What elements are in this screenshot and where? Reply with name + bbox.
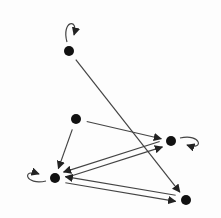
edge-C-to-D: [64, 141, 160, 172]
node-A: [64, 46, 74, 56]
directed-graph: [0, 0, 221, 218]
self-loop-C: [180, 137, 198, 146]
nodes: [50, 46, 191, 205]
node-C: [166, 136, 176, 146]
edge-B-to-D: [58, 129, 72, 168]
node-B: [71, 114, 81, 124]
edge-D-to-C: [66, 147, 162, 178]
edges: [58, 60, 179, 202]
self-loops: [28, 24, 199, 182]
node-E: [181, 195, 191, 205]
self-loop-A: [66, 24, 75, 42]
edge-B-to-C: [87, 121, 162, 138]
self-loop-D: [28, 173, 46, 182]
node-D: [50, 173, 60, 183]
edge-A-to-E: [76, 60, 180, 192]
